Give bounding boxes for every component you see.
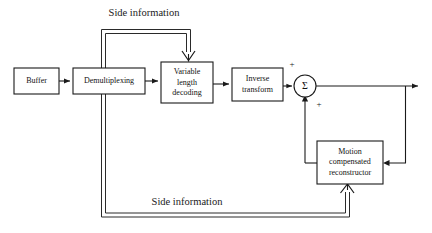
plus-sign-bottom: + bbox=[316, 99, 321, 109]
block-label-vld-line1: Variable bbox=[174, 67, 201, 76]
block-label-demultiplexing: Demultiplexing bbox=[84, 76, 134, 85]
plus-sign-top: + bbox=[289, 59, 294, 69]
feedback-output-to-reconstructor bbox=[383, 86, 406, 166]
block-label-inverse-transform-line2: transform bbox=[242, 85, 274, 94]
block-label-vld-line2: length bbox=[177, 78, 197, 87]
feedback-reconstructor-to-sum bbox=[302, 95, 317, 163]
side-information-top-label: Side information bbox=[109, 7, 181, 18]
block-label-vld-line3: decoding bbox=[172, 88, 201, 97]
block-label-inverse-transform-line1: Inverse bbox=[246, 74, 270, 83]
block-label-buffer: Buffer bbox=[26, 76, 47, 85]
diagram-canvas: Σ Buffer Demultiplexing Variable length … bbox=[0, 0, 432, 233]
block-label-mcr-line1: Motion bbox=[338, 147, 362, 156]
side-information-bottom-bus bbox=[102, 94, 355, 217]
decoder-block-diagram: Σ Buffer Demultiplexing Variable length … bbox=[0, 0, 432, 233]
block-label-mcr-line3: reconstructor bbox=[329, 168, 372, 177]
summing-junction: Σ bbox=[294, 75, 316, 97]
block-label-mcr-line2: compensated bbox=[329, 157, 371, 166]
side-information-bottom-label: Side information bbox=[152, 196, 224, 207]
sigma-symbol: Σ bbox=[302, 80, 308, 91]
